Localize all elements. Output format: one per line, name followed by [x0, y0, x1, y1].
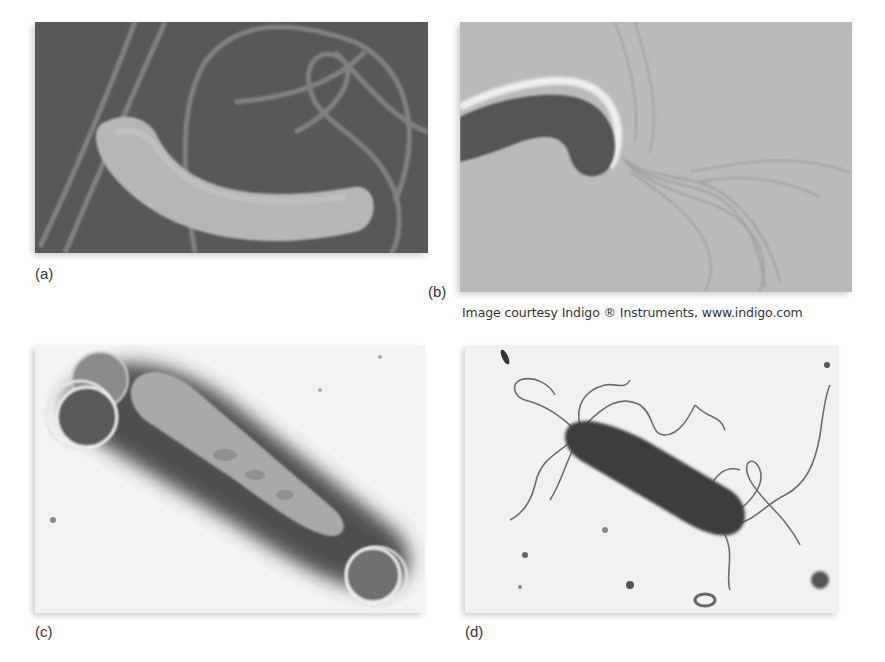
tem-flagellated-bacterium-image [465, 345, 839, 613]
panel-label-c: (c) [35, 623, 53, 640]
micrograph-panel-b [460, 22, 852, 292]
phase-contrast-bacterium-image [460, 22, 852, 292]
panel-label-b: (b) [428, 283, 446, 300]
micrograph-panel-a [35, 22, 428, 253]
panel-label-a: (a) [35, 265, 53, 282]
sem-curved-bacterium-image [35, 22, 428, 253]
tem-rod-bacterium-with-halo-image [35, 345, 425, 613]
micrograph-panel-c [35, 345, 425, 613]
micrograph-panel-d [465, 345, 839, 613]
image-credit: Image courtesy Indigo ® Instruments, www… [462, 305, 803, 320]
panel-label-d: (d) [465, 623, 483, 640]
